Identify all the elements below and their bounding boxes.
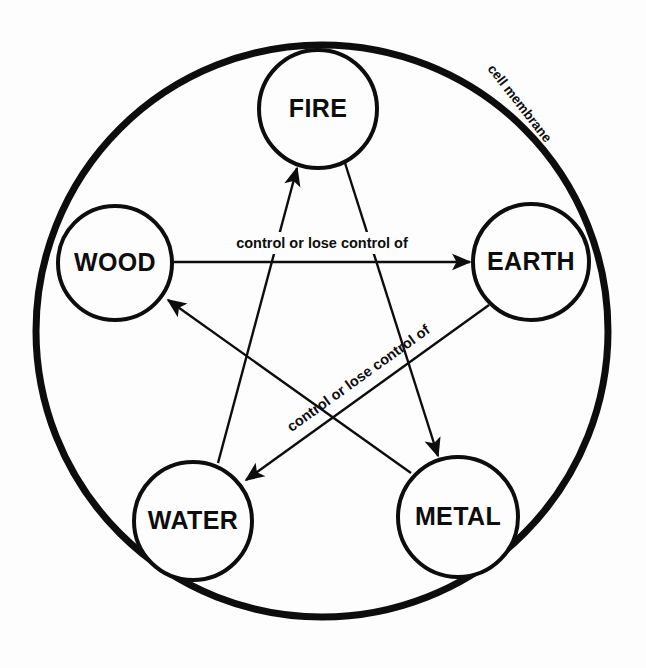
node-wood-label: WOOD — [74, 248, 156, 276]
five-element-cycle-diagram: cell membrane control or lose control of… — [0, 0, 646, 668]
node-water[interactable]: WATER — [134, 462, 252, 580]
node-fire[interactable]: FIRE — [259, 50, 377, 168]
diagram-canvas: cell membrane control or lose control of… — [0, 0, 646, 668]
edge-earth-to-water — [246, 305, 489, 480]
node-wood[interactable]: WOOD — [58, 206, 172, 320]
edge-label-earth-water: control or lose control of — [284, 321, 433, 434]
node-metal-label: METAL — [415, 502, 501, 530]
nodes-group: FIRE WOOD EARTH WATER METAL — [58, 50, 589, 580]
node-earth[interactable]: EARTH — [473, 204, 589, 320]
edges-group — [168, 163, 489, 480]
node-metal[interactable]: METAL — [398, 457, 518, 577]
node-fire-label: FIRE — [289, 94, 348, 122]
node-water-label: WATER — [148, 506, 238, 534]
edge-water-to-fire — [218, 168, 297, 463]
edge-label-wood-earth: control or lose control of — [236, 235, 408, 251]
edge-fire-to-metal — [345, 163, 438, 456]
node-earth-label: EARTH — [487, 247, 575, 275]
